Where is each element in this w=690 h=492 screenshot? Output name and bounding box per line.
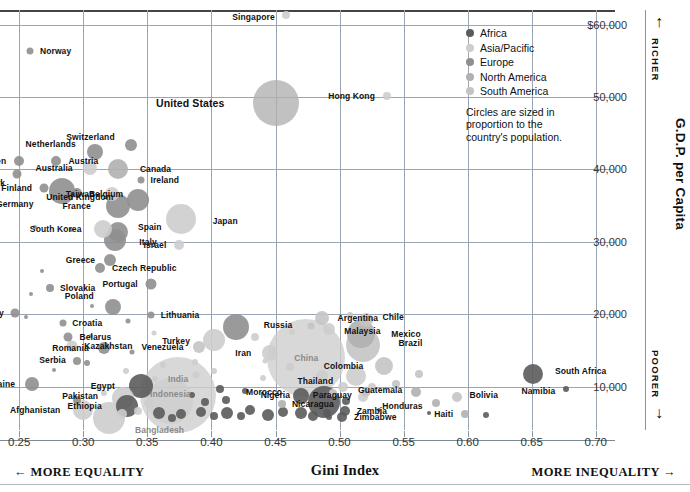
richer-arrow-icon: ↑ (655, 14, 663, 30)
data-bubble-unlabeled[interactable] (196, 407, 206, 417)
data-bubble[interactable] (95, 263, 105, 273)
data-bubble[interactable] (11, 308, 20, 317)
data-bubble[interactable] (411, 387, 421, 397)
data-bubble-unlabeled[interactable] (176, 409, 186, 419)
data-bubble-unlabeled[interactable] (222, 396, 230, 404)
data-bubble[interactable] (375, 357, 393, 375)
x-axis-tick: 0.25 (8, 436, 30, 448)
data-bubble-unlabeled[interactable] (427, 411, 431, 415)
data-bubble[interactable] (278, 400, 286, 408)
data-bubble[interactable] (94, 220, 112, 238)
data-bubble[interactable] (383, 92, 391, 100)
data-bubble[interactable] (26, 47, 33, 54)
legend-item-ap[interactable]: Asia/Pacific (466, 41, 596, 56)
legend-swatch-icon (466, 87, 474, 95)
country-label: Japan (213, 217, 238, 226)
data-bubble[interactable] (25, 377, 39, 391)
x-axis-tick-mark (83, 431, 84, 437)
data-bubble[interactable] (73, 357, 81, 365)
data-bubble[interactable] (146, 278, 157, 289)
data-bubble-unlabeled[interactable] (52, 368, 56, 372)
data-bubble[interactable] (253, 80, 299, 126)
data-bubble-unlabeled[interactable] (152, 376, 158, 382)
data-bubble[interactable] (127, 189, 149, 211)
data-bubble[interactable] (323, 323, 335, 335)
y-axis-caption-richer: RICHER (650, 38, 661, 82)
data-bubble[interactable] (63, 332, 72, 341)
data-bubble[interactable] (203, 329, 225, 351)
data-bubble-unlabeled[interactable] (326, 414, 332, 420)
data-bubble[interactable] (166, 204, 196, 234)
data-bubble-unlabeled[interactable] (40, 269, 44, 273)
data-bubble-unlabeled[interactable] (263, 358, 268, 363)
legend-item-sa[interactable]: South America (466, 84, 596, 99)
data-bubble-unlabeled[interactable] (123, 368, 129, 374)
data-bubble[interactable] (105, 299, 121, 315)
data-bubble[interactable] (282, 11, 290, 19)
data-bubble-unlabeled[interactable] (126, 319, 131, 324)
data-bubble-unlabeled[interactable] (211, 368, 217, 374)
data-bubble-unlabeled[interactable] (308, 322, 315, 329)
data-bubble-unlabeled[interactable] (134, 407, 142, 415)
data-bubble-unlabeled[interactable] (168, 414, 176, 422)
data-bubble-unlabeled[interactable] (245, 405, 255, 415)
data-bubble[interactable] (108, 159, 128, 179)
data-bubble[interactable] (14, 156, 24, 166)
data-bubble-unlabeled[interactable] (295, 407, 307, 419)
data-bubble[interactable] (12, 170, 21, 179)
country-label: Paraguay (313, 390, 352, 399)
more-inequality-label: MORE INEQUALITY (531, 465, 659, 479)
data-bubble-unlabeled[interactable] (289, 329, 295, 335)
data-bubble-unlabeled[interactable] (160, 362, 166, 368)
data-bubble-unlabeled[interactable] (84, 360, 90, 366)
data-bubble-unlabeled[interactable] (483, 412, 489, 418)
country-label: United States (156, 97, 224, 108)
data-bubble[interactable] (174, 240, 184, 250)
data-bubble-unlabeled[interactable] (193, 372, 200, 379)
data-bubble-unlabeled[interactable] (286, 363, 294, 371)
country-label: Iran (235, 349, 251, 358)
data-bubble-unlabeled[interactable] (153, 407, 165, 419)
data-bubble-unlabeled[interactable] (415, 370, 423, 378)
data-bubble-unlabeled[interactable] (192, 359, 198, 365)
data-bubble-unlabeled[interactable] (201, 398, 209, 406)
country-label: Finland (1, 184, 32, 193)
country-label: Ethiopia (68, 402, 102, 411)
data-bubble-unlabeled[interactable] (237, 412, 245, 420)
data-bubble[interactable] (59, 319, 66, 326)
data-bubble[interactable] (337, 412, 347, 422)
data-bubble-unlabeled[interactable] (216, 385, 224, 393)
data-bubble-unlabeled[interactable] (101, 390, 107, 396)
country-label: Canada (140, 165, 171, 174)
data-bubble-unlabeled[interactable] (278, 407, 288, 417)
data-bubble[interactable] (46, 284, 54, 292)
x-axis-tick-mark (596, 431, 597, 437)
legend-item-na[interactable]: North America (466, 70, 596, 85)
data-bubble-unlabeled[interactable] (117, 409, 127, 419)
data-bubble[interactable] (223, 314, 249, 340)
data-bubble-unlabeled[interactable] (144, 398, 154, 408)
y-axis-line (645, 10, 646, 430)
country-label: Austria (68, 157, 98, 166)
data-bubble[interactable] (125, 139, 137, 151)
data-bubble-unlabeled[interactable] (262, 409, 274, 421)
data-bubble-unlabeled[interactable] (210, 412, 218, 420)
data-bubble-unlabeled[interactable] (24, 315, 28, 319)
data-bubble[interactable] (148, 311, 155, 318)
data-bubble[interactable] (523, 364, 543, 384)
data-bubble[interactable] (461, 410, 469, 418)
country-label: Nicaragua (292, 400, 334, 409)
data-bubble-unlabeled[interactable] (151, 331, 156, 336)
data-bubble[interactable] (432, 399, 440, 407)
data-bubble-unlabeled[interactable] (29, 292, 33, 296)
data-bubble-unlabeled[interactable] (90, 304, 94, 308)
data-bubble-unlabeled[interactable] (260, 375, 266, 381)
data-bubble-unlabeled[interactable] (221, 407, 233, 419)
legend-item-eu[interactable]: Europe (466, 55, 596, 70)
data-bubble-unlabeled[interactable] (308, 411, 318, 421)
legend-item-af[interactable]: Africa (466, 26, 596, 41)
data-bubble[interactable] (452, 392, 462, 402)
data-bubble-unlabeled[interactable] (251, 333, 259, 341)
data-bubble[interactable] (193, 341, 205, 353)
data-bubble[interactable] (137, 177, 144, 184)
